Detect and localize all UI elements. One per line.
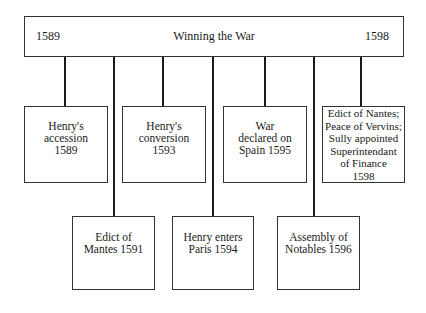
timeline-header: 1589 Winning the War 1598	[24, 16, 404, 57]
event-assembly-of-notables: Assembly of Notables 1596	[277, 216, 360, 290]
event-label: Henry's conversion 1593	[137, 120, 191, 156]
event-henry-enters-paris: Henry enters Paris 1594	[172, 216, 254, 290]
connector-notables	[313, 57, 315, 216]
event-label: Assembly of Notables 1596	[283, 231, 354, 255]
event-label: Edict of Nantes; Peace of Vervins; Sully…	[323, 107, 404, 182]
connector-war-spain	[264, 57, 266, 106]
event-label: Henry enters Paris 1594	[181, 231, 244, 255]
event-henry-accession: Henry's accession 1589	[24, 106, 108, 183]
connector-paris	[212, 57, 214, 216]
connector-conversion	[162, 57, 164, 106]
connector-accession	[64, 57, 66, 106]
event-henry-conversion: Henry's conversion 1593	[122, 106, 206, 183]
connector-nantes	[360, 57, 362, 106]
event-edict-of-mantes: Edict of Mantes 1591	[72, 216, 155, 290]
event-label: War declared on Spain 1595	[236, 120, 293, 156]
end-year: 1598	[365, 29, 389, 43]
event-edict-of-nantes: Edict of Nantes; Peace of Vervins; Sully…	[322, 106, 405, 183]
event-war-declared-spain: War declared on Spain 1595	[223, 106, 307, 183]
event-label: Henry's accession 1589	[42, 120, 90, 156]
connector-mantes	[113, 57, 115, 216]
timeline-title: Winning the War	[25, 29, 403, 43]
event-label: Edict of Mantes 1591	[82, 231, 146, 255]
